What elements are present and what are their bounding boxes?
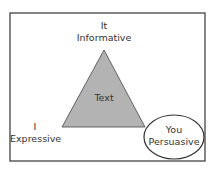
right-pronoun: You [144, 124, 204, 136]
top-label: It Informative [74, 20, 134, 44]
left-pronoun: I [10, 121, 60, 133]
top-function: Informative [74, 32, 134, 44]
center-label: Text [84, 92, 124, 104]
top-pronoun: It [74, 20, 134, 32]
left-function: Expressive [10, 133, 60, 145]
right-label: You Persuasive [144, 124, 204, 148]
left-label: I Expressive [10, 121, 60, 145]
right-function: Persuasive [144, 136, 204, 148]
